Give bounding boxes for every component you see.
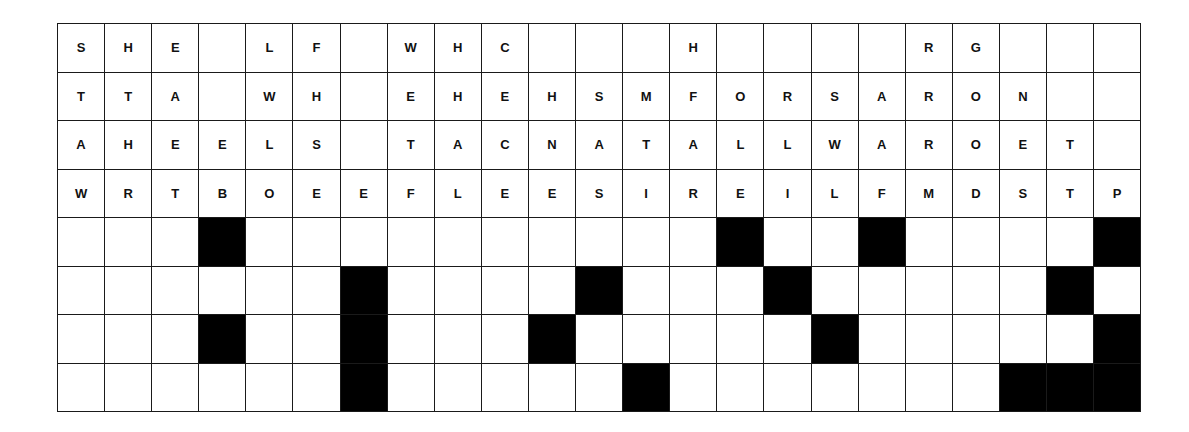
letter-cell: R <box>670 170 717 219</box>
answer-cell[interactable] <box>199 267 246 316</box>
answer-cell[interactable] <box>670 267 717 316</box>
answer-cell[interactable] <box>152 218 199 267</box>
answer-cell[interactable] <box>953 267 1000 316</box>
letter-cell: A <box>859 121 906 170</box>
answer-cell[interactable] <box>388 315 435 364</box>
answer-cell[interactable] <box>764 364 811 413</box>
answer-cell[interactable] <box>623 218 670 267</box>
letter-cell: F <box>293 24 340 73</box>
answer-cell[interactable] <box>717 315 764 364</box>
answer-cell[interactable] <box>246 364 293 413</box>
answer-cell[interactable] <box>812 364 859 413</box>
answer-cell[interactable] <box>1000 315 1047 364</box>
letter-cell: R <box>906 24 953 73</box>
letter-cell: T <box>388 121 435 170</box>
black-cell <box>812 315 859 364</box>
answer-cell[interactable] <box>953 364 1000 413</box>
answer-cell[interactable] <box>293 218 340 267</box>
answer-cell[interactable] <box>859 364 906 413</box>
answer-cell[interactable] <box>246 267 293 316</box>
letter-cell: S <box>576 73 623 122</box>
letter-cell: A <box>435 121 482 170</box>
answer-cell[interactable] <box>293 364 340 413</box>
answer-cell[interactable] <box>670 315 717 364</box>
black-cell <box>859 218 906 267</box>
answer-cell[interactable] <box>152 364 199 413</box>
answer-cell[interactable] <box>105 315 152 364</box>
answer-cell[interactable] <box>576 364 623 413</box>
answer-cell[interactable] <box>717 364 764 413</box>
answer-cell[interactable] <box>58 218 105 267</box>
answer-cell[interactable] <box>435 267 482 316</box>
answer-cell[interactable] <box>105 364 152 413</box>
answer-cell[interactable] <box>435 218 482 267</box>
answer-cell[interactable] <box>529 364 576 413</box>
answer-cell[interactable] <box>859 315 906 364</box>
answer-cell[interactable] <box>1000 267 1047 316</box>
answer-cell[interactable] <box>246 218 293 267</box>
answer-cell[interactable] <box>1094 267 1141 316</box>
answer-cell[interactable] <box>435 315 482 364</box>
answer-cell[interactable] <box>623 315 670 364</box>
letter-cell: L <box>812 170 859 219</box>
answer-cell[interactable] <box>953 218 1000 267</box>
answer-cell[interactable] <box>293 267 340 316</box>
black-cell <box>1047 267 1094 316</box>
answer-cell[interactable] <box>906 267 953 316</box>
answer-cell[interactable] <box>341 218 388 267</box>
answer-cell[interactable] <box>199 364 246 413</box>
answer-cell[interactable] <box>1047 218 1094 267</box>
answer-cell[interactable] <box>623 267 670 316</box>
answer-cell[interactable] <box>1047 315 1094 364</box>
letter-cell: W <box>388 24 435 73</box>
answer-cell[interactable] <box>529 267 576 316</box>
letter-cell: M <box>623 73 670 122</box>
answer-cell[interactable] <box>576 218 623 267</box>
answer-cell[interactable] <box>906 315 953 364</box>
answer-cell[interactable] <box>293 315 340 364</box>
answer-cell[interactable] <box>105 218 152 267</box>
empty-letter-cell <box>717 24 764 73</box>
answer-cell[interactable] <box>670 364 717 413</box>
answer-cell[interactable] <box>482 315 529 364</box>
answer-cell[interactable] <box>152 267 199 316</box>
letter-cell: C <box>482 121 529 170</box>
answer-cell[interactable] <box>388 267 435 316</box>
answer-cell[interactable] <box>717 267 764 316</box>
answer-cell[interactable] <box>576 315 623 364</box>
black-cell <box>341 364 388 413</box>
answer-cell[interactable] <box>482 267 529 316</box>
answer-cell[interactable] <box>529 218 576 267</box>
letter-cell: O <box>953 73 1000 122</box>
answer-cell[interactable] <box>906 218 953 267</box>
letter-cell: R <box>764 73 811 122</box>
answer-cell[interactable] <box>812 267 859 316</box>
answer-cell[interactable] <box>859 267 906 316</box>
black-cell <box>1094 315 1141 364</box>
answer-cell[interactable] <box>764 315 811 364</box>
answer-cell[interactable] <box>246 315 293 364</box>
letter-cell: T <box>1047 170 1094 219</box>
answer-cell[interactable] <box>670 218 717 267</box>
answer-cell[interactable] <box>388 218 435 267</box>
letter-cell: T <box>1047 121 1094 170</box>
answer-cell[interactable] <box>435 364 482 413</box>
answer-cell[interactable] <box>482 218 529 267</box>
letter-cell: T <box>152 170 199 219</box>
answer-cell[interactable] <box>58 364 105 413</box>
answer-cell[interactable] <box>482 364 529 413</box>
answer-cell[interactable] <box>105 267 152 316</box>
answer-cell[interactable] <box>388 364 435 413</box>
answer-cell[interactable] <box>953 315 1000 364</box>
answer-cell[interactable] <box>764 218 811 267</box>
letter-cell: F <box>388 170 435 219</box>
answer-cell[interactable] <box>1000 218 1047 267</box>
letter-cell: M <box>906 170 953 219</box>
empty-letter-cell <box>1094 121 1141 170</box>
answer-cell[interactable] <box>906 364 953 413</box>
answer-cell[interactable] <box>58 267 105 316</box>
answer-cell[interactable] <box>812 218 859 267</box>
answer-cell[interactable] <box>58 315 105 364</box>
answer-cell[interactable] <box>152 315 199 364</box>
black-cell <box>199 218 246 267</box>
